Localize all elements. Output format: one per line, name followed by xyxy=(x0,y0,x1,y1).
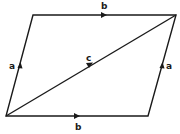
label-right-a: a xyxy=(166,61,172,71)
diagonal-c xyxy=(6,15,176,116)
arrow-bottom-b-icon xyxy=(74,113,80,119)
label-top-b: b xyxy=(101,1,108,11)
label-left-a: a xyxy=(9,61,15,71)
label-diagonal-c: c xyxy=(86,53,91,63)
label-bottom-b: b xyxy=(75,122,82,132)
parallelogram-diagram: b b a a c xyxy=(0,0,180,134)
arrow-top-b-icon xyxy=(101,12,107,18)
